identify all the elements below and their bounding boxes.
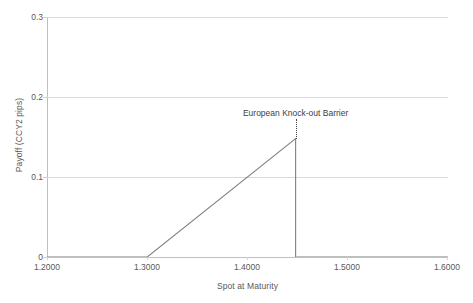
y-tick-label-0.3: 0.3 xyxy=(5,12,43,22)
x-tick-mark-1.3000 xyxy=(147,257,148,260)
x-axis-title: Spot at Maturity xyxy=(47,281,448,291)
x-tick-mark-1.4000 xyxy=(247,257,248,260)
y-tick-label-0.1: 0.1 xyxy=(5,172,43,182)
x-tick-label-1.2000: 1.2000 xyxy=(17,262,77,273)
x-tick-label-1.4000: 1.4000 xyxy=(217,262,277,273)
x-tick-label-1.3000: 1.3000 xyxy=(117,262,177,273)
x-tick-label-1.6000: 1.6000 xyxy=(417,262,473,273)
x-tick-label-1.5000: 1.5000 xyxy=(317,262,377,273)
plot-area xyxy=(47,17,448,257)
payoff-chart: Payoff (CCY2 pips) 0.3 0.2 0.1 0 1.2000 … xyxy=(0,0,473,303)
x-tick-mark-1.5000 xyxy=(347,257,348,260)
knock-out-barrier-annotation-label: European Knock-out Barrier xyxy=(196,108,396,118)
y-axis-tick-labels: 0.3 0.2 0.1 0 xyxy=(0,0,43,303)
payoff-series-line xyxy=(47,17,448,258)
y-tick-label-0: 0 xyxy=(5,252,43,262)
knock-out-barrier-leader-line xyxy=(296,119,297,139)
x-tick-mark-1.2000 xyxy=(47,257,48,260)
x-tick-mark-1.6000 xyxy=(447,257,448,260)
y-tick-label-0.2: 0.2 xyxy=(5,92,43,102)
